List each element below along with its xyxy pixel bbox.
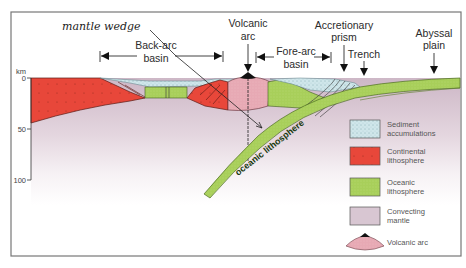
legend-item-continental: Continental lithosphere (350, 147, 426, 165)
legend-item-oceanic: Oceanic lithosphere (350, 178, 424, 196)
svg-text:basin: basin (283, 58, 308, 70)
svg-text:lithosphere: lithosphere (387, 187, 424, 196)
subduction-zone-diagram: oceanic lithosphere km 0 50 100 mantle w… (0, 0, 466, 268)
svg-text:Convecting: Convecting (387, 207, 425, 216)
svg-text:Continental: Continental (387, 147, 426, 156)
svg-text:Sediment: Sediment (387, 120, 420, 129)
svg-text:Back-arc: Back-arc (135, 39, 176, 51)
svg-text:basin: basin (143, 52, 168, 64)
svg-text:Trench: Trench (348, 48, 380, 60)
svg-text:Volcanic arc: Volcanic arc (387, 238, 428, 247)
mantle-wedge-annotation: mantle wedge (62, 20, 141, 33)
volcanic-arc-body (228, 77, 270, 111)
svg-text:Fore-arc: Fore-arc (276, 45, 316, 57)
svg-text:plain: plain (423, 39, 445, 51)
svg-text:Volcanic: Volcanic (228, 17, 267, 29)
svg-text:prism: prism (331, 31, 357, 43)
svg-text:lithosphere: lithosphere (387, 156, 424, 165)
svg-text:Oceanic: Oceanic (387, 178, 415, 187)
svg-text:Abyssal: Abyssal (416, 27, 453, 39)
tick-0: 0 (22, 74, 26, 83)
tick-50: 50 (18, 125, 26, 134)
svg-text:arc: arc (241, 30, 256, 42)
svg-text:Accretionary: Accretionary (315, 19, 374, 31)
svg-text:accumulations: accumulations (387, 129, 436, 138)
tick-100: 100 (13, 176, 26, 185)
svg-text:mantle: mantle (387, 216, 410, 225)
